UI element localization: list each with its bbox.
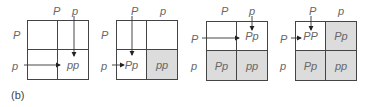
figure-caption: (b) [11, 89, 24, 101]
allele-arrows [0, 0, 366, 107]
